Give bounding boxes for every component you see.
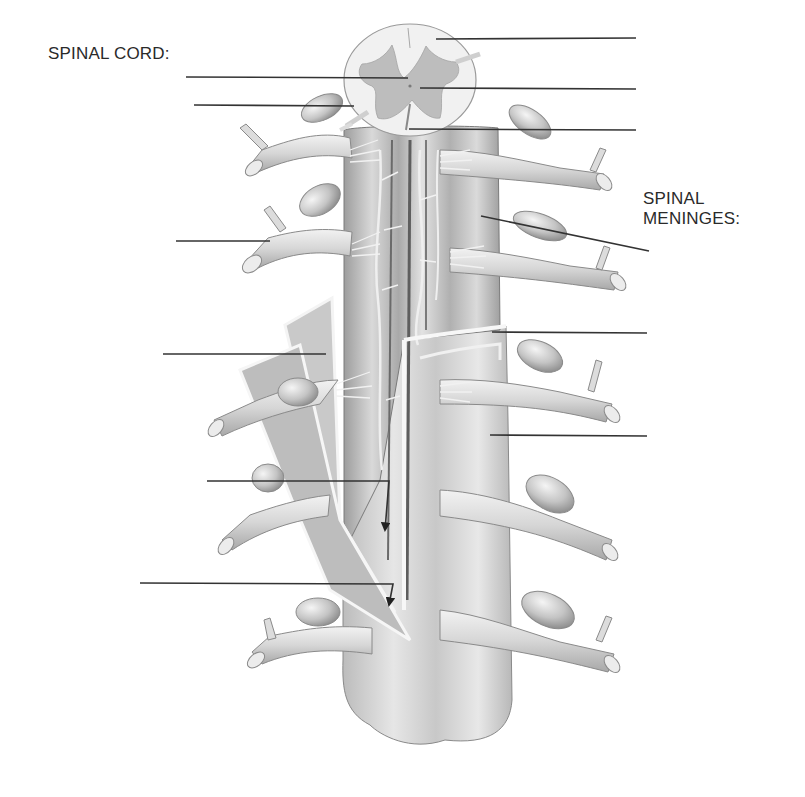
spinal-meninges-heading-line2: MENINGES: <box>643 209 740 229</box>
leader-line-meninges-3 <box>490 435 647 436</box>
spinal-meninges-heading: SPINAL MENINGES: <box>643 189 740 229</box>
leader-line-cord-4 <box>194 105 354 106</box>
spinal-cord-meninges-diagram: SPINAL CORD: SPINAL MENINGES: <box>0 0 805 797</box>
spinal-cord-heading: SPINAL CORD: <box>48 44 170 64</box>
leader-line-cord-5 <box>409 129 636 130</box>
spinal-cord-cross-section <box>340 24 480 136</box>
leader-line-cord-3 <box>420 88 636 89</box>
anatomy-illustration <box>0 0 805 797</box>
leader-line-cord-2 <box>186 77 408 78</box>
spinal-meninges-heading-line1: SPINAL <box>643 189 740 209</box>
leader-line-meninges-1 <box>481 216 649 251</box>
leader-line-meninges-2 <box>492 332 647 333</box>
leader-line-cord-1 <box>436 38 636 39</box>
